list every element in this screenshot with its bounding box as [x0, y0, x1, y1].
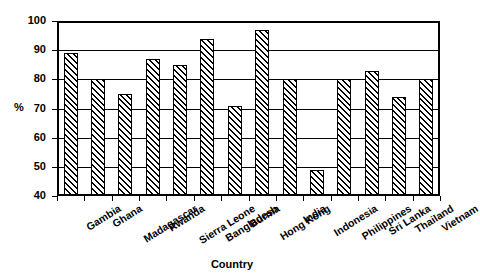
y-tick-label: 100 [22, 15, 46, 26]
x-tick-mark [303, 196, 304, 201]
bar[interactable] [310, 170, 324, 196]
x-tick-mark [385, 196, 386, 201]
x-tick-mark [358, 196, 359, 201]
x-tick-mark [139, 196, 140, 201]
x-tick-mark [221, 196, 222, 201]
bar[interactable] [146, 59, 160, 196]
y-tick-label: 50 [22, 161, 46, 172]
bar[interactable] [173, 65, 187, 196]
bar[interactable] [228, 106, 242, 196]
x-tick-mark [84, 196, 85, 201]
x-tick-mark [413, 196, 414, 201]
x-tick-mark [249, 196, 250, 201]
y-tick-label: 70 [22, 103, 46, 114]
bar[interactable] [118, 94, 132, 196]
x-tick-mark [276, 196, 277, 201]
bar[interactable] [64, 53, 78, 196]
y-tick-label: 80 [22, 73, 46, 84]
bar[interactable] [365, 71, 379, 196]
x-tick-mark [331, 196, 332, 201]
bar[interactable] [200, 39, 214, 197]
x-tick-mark [166, 196, 167, 201]
x-tick-mark [440, 196, 441, 201]
y-tick-label: 60 [22, 132, 46, 143]
bar[interactable] [337, 79, 351, 196]
bars-layer [57, 21, 440, 196]
bar[interactable] [419, 79, 433, 196]
x-tick-mark [57, 196, 58, 201]
plot-area [57, 21, 440, 196]
x-axis-title: Country [0, 258, 464, 270]
bar[interactable] [392, 97, 406, 196]
y-tick-label: 40 [22, 190, 46, 201]
bar[interactable] [91, 79, 105, 196]
x-tick-mark [194, 196, 195, 201]
bar[interactable] [255, 30, 269, 196]
y-tick-label: 90 [22, 44, 46, 55]
bar[interactable] [283, 79, 297, 196]
x-tick-mark [112, 196, 113, 201]
